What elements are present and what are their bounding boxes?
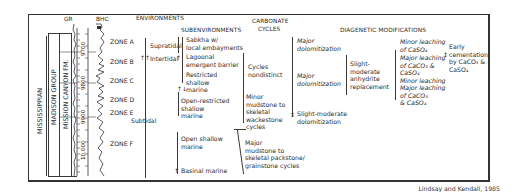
zone-label: ZONE B [110,58,134,66]
arrow-icon: ↑↑ [140,55,150,61]
arrow-icon: ↕ [290,112,295,118]
depth-label: 10,000 [80,140,86,160]
dolomite-label: Majordolomitization [297,72,341,87]
subenv-label: Lagoonalemergent barrier [186,53,239,68]
arrow-icon: ↑ [174,168,179,174]
cementation-label: Earlycementationby CaCO₃ &CaSO₄ [449,43,488,73]
environment-label: Supratidal [150,42,182,50]
environment-label: Subtidal [131,117,156,125]
cycle-label: Cyclesnondistinct [248,63,282,78]
diagenetic-header: DIAGENETIC MODIFICATIONS [340,27,426,35]
anhydrite-label: Slight-moderateanhydritereplacement [350,60,389,90]
subenv-label: Restrictedshallowmarine [186,71,217,94]
arrow-icon: ↕ [443,52,448,58]
carbonate-header-2: CYCLES [258,26,280,34]
cycle-range-line [243,53,244,123]
environment-range-line [178,37,179,53]
dolomite-range-line [292,37,293,117]
subenv-range-line [182,37,183,83]
leaching-range-line [395,50,396,100]
anhydrite-range-line [346,55,347,95]
leaching-label: Minor leachingof CaSO₄ [400,38,446,53]
zone-label: ZONE C [110,77,134,85]
subenv-label: Sabkha w/local embayments [186,36,243,51]
dolomite-label: Majordolomitization [297,37,341,52]
zone-label: ZONE A [110,38,134,46]
environments-header: ENVIRONMENTS [136,15,184,23]
leaching-label: Major leachingof CaCO₃& CaSO₄ [400,84,445,107]
cycle-label: Minormudstone toskeletalwackestonecycles [246,93,285,131]
leaching-label: Major leachingof CaCO₃ &CaSO₄ [400,54,445,77]
arrow-icon: ↑ [176,55,181,61]
figure-credit: Lindsay and Kendall, 1985 [418,185,500,192]
depth-label: 9700 [80,42,86,56]
carbonate-header-1: CARBONATE [252,18,288,26]
cycle-label: Majormudstone toskeletal packstone/grain… [245,139,305,169]
subenv-label: Basinal marine [181,167,227,175]
zone-label: ZONE D [110,96,134,104]
subenv-label: Open-restrictedshallowmarine [181,97,229,120]
zone-label: ZONE F [110,140,133,148]
depth-label: 9900 [80,110,86,124]
dolomite-label: Slight-moderatedolomitization [297,110,347,125]
depth-label: 9800 [80,76,86,90]
zone-label: ZONE E [110,109,134,117]
subenvironments-header: SUBENVIRONMENTS [181,27,241,35]
subenv-range-line [178,92,179,116]
subenv-label: Open shallowmarine [181,135,223,150]
environment-label: Intertidal [150,55,178,63]
